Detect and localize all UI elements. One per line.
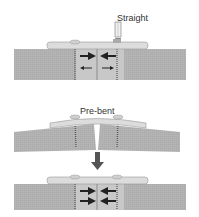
result-panel bbox=[14, 175, 186, 210]
bone-left bbox=[14, 49, 76, 80]
plate bbox=[47, 42, 148, 49]
plate bbox=[47, 177, 148, 184]
bone-left bbox=[14, 184, 76, 210]
transition-arrow-icon bbox=[91, 152, 104, 170]
bone-right bbox=[124, 184, 186, 210]
bone-right bbox=[98, 124, 180, 152]
plate-fixation-diagram bbox=[0, 0, 199, 217]
pre-bent-panel bbox=[14, 115, 180, 152]
bone-right bbox=[124, 49, 186, 80]
straight-panel bbox=[14, 22, 186, 80]
bone-left bbox=[14, 124, 96, 152]
